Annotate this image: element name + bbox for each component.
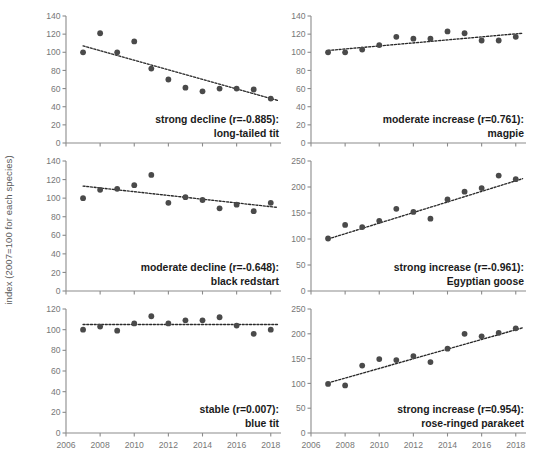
y-tick-label: 200: [291, 329, 306, 339]
y-axis-label: index (2007=100 for each species): [2, 120, 16, 340]
panel-annotation-species: rose-ringed parakeet: [421, 418, 524, 429]
data-point: [479, 185, 485, 191]
panel-annotation-species: black redstart: [211, 276, 280, 287]
y-tick-label: 0: [56, 138, 61, 148]
y-tick-label: 250: [291, 304, 306, 314]
data-point: [462, 331, 468, 337]
x-tick-label: 2018: [261, 440, 280, 450]
y-tick-label: 40: [51, 387, 61, 397]
trendline: [328, 33, 523, 50]
y-tick-label: 120: [46, 304, 61, 314]
panel-magpie: 020406080100120140moderate increase (r=0…: [281, 10, 530, 155]
data-point: [251, 87, 257, 93]
data-point: [462, 30, 468, 36]
y-tick-label: 140: [291, 11, 306, 21]
data-point: [251, 331, 257, 337]
y-tick-label: 250: [291, 156, 306, 166]
y-tick-label: 20: [51, 407, 61, 417]
data-point: [393, 206, 399, 212]
y-tick-label: 0: [301, 428, 306, 438]
y-tick-label: 20: [51, 120, 61, 130]
data-point: [234, 202, 240, 208]
data-point: [513, 325, 519, 331]
data-point: [268, 327, 274, 333]
data-point: [342, 382, 348, 388]
data-point: [445, 346, 451, 352]
data-point: [410, 36, 416, 42]
plot-area-rose-ringed-parakeet: 0501001502002502006200820102012201420162…: [281, 303, 530, 461]
data-point: [268, 200, 274, 206]
panel-annotation-trend: strong increase (r=0.954):: [397, 404, 524, 415]
panel-annotation-trend: moderate increase (r=0.761):: [383, 114, 524, 125]
data-point: [131, 321, 137, 327]
data-point: [183, 85, 189, 91]
y-tick-label: 100: [291, 234, 306, 244]
y-tick-label: 60: [51, 230, 61, 240]
data-point: [325, 49, 331, 55]
x-tick-label: 2014: [193, 440, 212, 450]
y-tick-label: 60: [296, 84, 306, 94]
y-tick-label: 120: [291, 29, 306, 39]
panel-egyptian-goose: 050100150200250strong increase (r=-0.961…: [281, 155, 530, 303]
y-tick-label: 40: [296, 102, 306, 112]
data-point: [183, 317, 189, 323]
panel-black-redstart: 020406080100120140moderate decline (r=-0…: [36, 155, 285, 303]
y-tick-label: 80: [51, 212, 61, 222]
y-tick-label: 40: [51, 249, 61, 259]
data-point: [376, 218, 382, 224]
y-tick-label: 100: [46, 193, 61, 203]
y-tick-label: 40: [51, 102, 61, 112]
data-point: [376, 42, 382, 48]
y-tick-label: 100: [46, 325, 61, 335]
data-point: [114, 49, 120, 55]
x-tick-label: 2006: [301, 440, 320, 450]
y-tick-label: 0: [56, 428, 61, 438]
y-tick-label: 20: [51, 268, 61, 278]
data-point: [359, 224, 365, 230]
x-tick-label: 2014: [438, 440, 457, 450]
data-point: [131, 39, 137, 45]
data-point: [445, 197, 451, 203]
x-tick-label: 2016: [227, 440, 246, 450]
panel-annotation-trend: moderate decline (r=-0.648):: [141, 262, 279, 273]
data-point: [496, 330, 502, 336]
trendline: [83, 46, 278, 100]
y-tick-label: 50: [296, 403, 306, 413]
y-tick-label: 100: [46, 47, 61, 57]
data-point: [80, 327, 86, 333]
y-tick-label: 60: [51, 84, 61, 94]
data-point: [148, 172, 154, 178]
data-point: [513, 176, 519, 182]
data-point: [479, 333, 485, 339]
data-point: [114, 186, 120, 192]
y-tick-label: 50: [296, 260, 306, 270]
panel-annotation-trend: stable (r=0.007):: [200, 404, 279, 415]
data-point: [217, 86, 223, 92]
data-point: [393, 357, 399, 363]
x-tick-label: 2010: [125, 440, 144, 450]
data-point: [513, 34, 519, 40]
data-point: [80, 49, 86, 55]
plot-area-egyptian-goose: 050100150200250strong increase (r=-0.961…: [281, 155, 530, 303]
data-point: [80, 195, 86, 201]
data-point: [217, 314, 223, 320]
x-tick-label: 2006: [56, 440, 75, 450]
data-point: [496, 38, 502, 44]
x-tick-label: 2012: [404, 440, 423, 450]
panel-annotation-trend: strong increase (r=-0.961):: [394, 262, 524, 273]
plot-area-blue-tit: 0204060801001202006200820102012201420162…: [36, 303, 285, 461]
data-point: [428, 216, 434, 222]
data-point: [268, 96, 274, 102]
data-point: [359, 47, 365, 53]
data-point: [479, 38, 485, 44]
data-point: [234, 86, 240, 92]
data-point: [234, 323, 240, 329]
panel-rose-ringed-parakeet: 0501001502002502006200820102012201420162…: [281, 303, 530, 461]
data-point: [428, 36, 434, 42]
y-tick-label: 140: [46, 11, 61, 21]
data-point: [445, 29, 451, 35]
panel-annotation-species: magpie: [488, 128, 525, 139]
plot-area-magpie: 020406080100120140moderate increase (r=0…: [281, 10, 530, 155]
trendline: [83, 186, 278, 207]
plot-area-black-redstart: 020406080100120140moderate decline (r=-0…: [36, 155, 285, 303]
